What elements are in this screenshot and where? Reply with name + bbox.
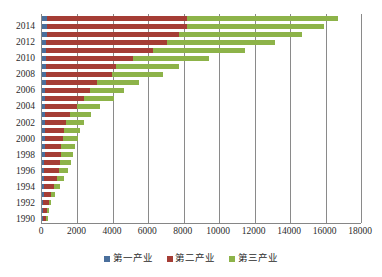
x-tick-label-6000: 6000 bbox=[138, 226, 157, 237]
bar-segment-tertiary bbox=[46, 216, 47, 221]
x-tick-label-12000: 12000 bbox=[242, 226, 266, 237]
legend-swatch-secondary-icon bbox=[167, 256, 173, 262]
bar-segment-tertiary bbox=[70, 112, 91, 117]
bar-row bbox=[42, 136, 78, 141]
bar-segment-secondary bbox=[46, 56, 133, 61]
bar-segment-secondary bbox=[45, 128, 64, 133]
bar-segment-tertiary bbox=[54, 184, 60, 189]
x-axis-labels: 0200040006000800010000120001400016000180… bbox=[0, 226, 382, 240]
bar-row bbox=[42, 208, 49, 213]
bar-segment-secondary bbox=[46, 72, 113, 77]
bar-row bbox=[42, 24, 324, 29]
legend-label: 第一产业 bbox=[113, 252, 153, 264]
bar-row bbox=[42, 152, 73, 157]
bar-segment-tertiary bbox=[64, 128, 80, 133]
plot-area bbox=[41, 14, 361, 224]
bar-row bbox=[42, 32, 302, 37]
bar-segment-tertiary bbox=[63, 136, 78, 141]
bar-segment-secondary bbox=[46, 80, 98, 85]
bar-segment-secondary bbox=[44, 168, 58, 173]
x-tick-label-0: 0 bbox=[39, 226, 44, 237]
bar-segment-secondary bbox=[45, 144, 62, 149]
bar-row bbox=[42, 168, 68, 173]
bar-segment-secondary bbox=[47, 16, 187, 21]
y-tick-label-2012: 2012 bbox=[16, 37, 35, 47]
bar-row bbox=[42, 48, 245, 53]
bar-segment-tertiary bbox=[60, 160, 71, 165]
bar-row bbox=[42, 216, 48, 221]
bar-rows bbox=[42, 14, 361, 223]
bar-segment-tertiary bbox=[59, 168, 69, 173]
y-tick-label-2004: 2004 bbox=[16, 101, 35, 111]
bar-segment-tertiary bbox=[116, 64, 178, 69]
bar-segment-secondary bbox=[45, 104, 77, 109]
y-tick-label-2010: 2010 bbox=[16, 53, 35, 63]
legend-label: 第二产业 bbox=[175, 252, 215, 264]
y-tick-label-2014: 2014 bbox=[16, 21, 35, 31]
y-tick-label-2000: 2000 bbox=[16, 134, 35, 144]
bar-segment-secondary bbox=[46, 40, 167, 45]
bar-segment-secondary bbox=[45, 120, 66, 125]
bar-row bbox=[42, 104, 100, 109]
bar-row bbox=[42, 64, 179, 69]
bar-segment-tertiary bbox=[47, 208, 49, 213]
legend-item-primary[interactable]: 第一产业 bbox=[104, 252, 153, 264]
x-tick-label-2000: 2000 bbox=[67, 226, 86, 237]
bar-segment-tertiary bbox=[97, 80, 138, 85]
bar-row bbox=[42, 144, 75, 149]
bar-segment-tertiary bbox=[187, 16, 338, 21]
bar-segment-tertiary bbox=[49, 200, 52, 205]
bar-segment-tertiary bbox=[61, 152, 73, 157]
bar-row bbox=[42, 128, 80, 133]
y-tick-label-1990: 1990 bbox=[16, 214, 35, 224]
y-tick-label-1994: 1994 bbox=[16, 182, 35, 192]
y-tick-label-2008: 2008 bbox=[16, 69, 35, 79]
bar-segment-secondary bbox=[44, 192, 51, 197]
bar-segment-tertiary bbox=[77, 104, 100, 109]
chart-legend: 第一产业第二产业第三产业 bbox=[0, 252, 382, 264]
bar-segment-secondary bbox=[44, 184, 54, 189]
legend-item-tertiary[interactable]: 第三产业 bbox=[229, 252, 278, 264]
bar-segment-tertiary bbox=[90, 88, 124, 93]
bar-segment-tertiary bbox=[66, 120, 84, 125]
legend-item-secondary[interactable]: 第二产业 bbox=[167, 252, 216, 264]
bar-segment-secondary bbox=[44, 160, 60, 165]
bar-segment-secondary bbox=[47, 24, 188, 29]
bar-row bbox=[42, 200, 51, 205]
bar-segment-secondary bbox=[46, 64, 116, 69]
y-axis-labels: 1990199219941996199820002002200420062008… bbox=[0, 14, 38, 223]
x-tick-label-18000: 18000 bbox=[348, 226, 372, 237]
bar-row bbox=[42, 88, 124, 93]
bar-segment-secondary bbox=[44, 176, 56, 181]
bar-segment-tertiary bbox=[179, 32, 302, 37]
bar-segment-secondary bbox=[45, 96, 84, 101]
bar-row bbox=[42, 96, 114, 101]
legend-swatch-tertiary-icon bbox=[229, 256, 235, 262]
bar-segment-tertiary bbox=[84, 96, 114, 101]
y-tick-label-1992: 1992 bbox=[16, 198, 35, 208]
bar-segment-tertiary bbox=[51, 192, 55, 197]
bar-segment-secondary bbox=[45, 88, 90, 93]
bar-segment-secondary bbox=[45, 112, 70, 117]
bar-segment-secondary bbox=[45, 152, 61, 157]
bar-row bbox=[42, 16, 338, 21]
bar-segment-tertiary bbox=[57, 176, 65, 181]
x-tick-label-4000: 4000 bbox=[102, 226, 121, 237]
y-tick-label-1998: 1998 bbox=[16, 150, 35, 160]
legend-swatch-primary-icon bbox=[104, 256, 110, 262]
bar-row bbox=[42, 80, 139, 85]
gridline-18000 bbox=[361, 14, 362, 223]
chart-container: 1990199219941996199820002002200420062008… bbox=[0, 0, 382, 277]
bar-row bbox=[42, 56, 209, 61]
bar-row bbox=[42, 72, 163, 77]
bar-row bbox=[42, 192, 55, 197]
bar-row bbox=[42, 120, 84, 125]
y-tick-label-2006: 2006 bbox=[16, 85, 35, 95]
bar-row bbox=[42, 184, 60, 189]
legend-label: 第三产业 bbox=[238, 252, 278, 264]
bar-segment-tertiary bbox=[133, 56, 208, 61]
bar-segment-secondary bbox=[47, 32, 179, 37]
bar-row bbox=[42, 112, 91, 117]
bar-segment-tertiary bbox=[112, 72, 163, 77]
x-tick-label-8000: 8000 bbox=[173, 226, 192, 237]
